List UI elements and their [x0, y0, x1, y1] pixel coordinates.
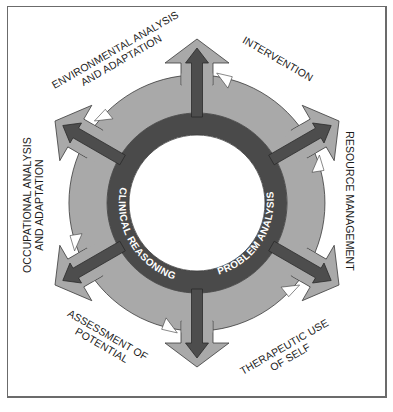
practice-model-diagram: CASE MANAGEMENT PROBLEM ANALYSIS CLINICA…	[0, 0, 393, 412]
svg-text:AND ADAPTATION: AND ADAPTATION	[33, 159, 45, 250]
label-occupational: OCCUPATIONAL ANALYSIS AND ADAPTATION	[21, 137, 45, 273]
svg-text:ENVIRONMENTAL ANALYSIS: ENVIRONMENTAL ANALYSIS	[49, 8, 180, 91]
label-resource: RESOURCE MANAGEMENT	[344, 131, 356, 271]
svg-text:RESOURCE MANAGEMENT: RESOURCE MANAGEMENT	[344, 131, 356, 271]
svg-text:OCCUPATIONAL ANALYSIS: OCCUPATIONAL ANALYSIS	[21, 137, 33, 273]
label-assessment: ASSESSMENT OF POTENTIAL	[60, 307, 150, 373]
label-therapeutic: THERAPEUTIC USE OF SELF	[238, 316, 337, 387]
svg-text:INTERVENTION: INTERVENTION	[241, 34, 316, 84]
svg-text:THERAPEUTIC USE: THERAPEUTIC USE	[238, 316, 331, 376]
label-intervention: INTERVENTION	[241, 34, 316, 84]
